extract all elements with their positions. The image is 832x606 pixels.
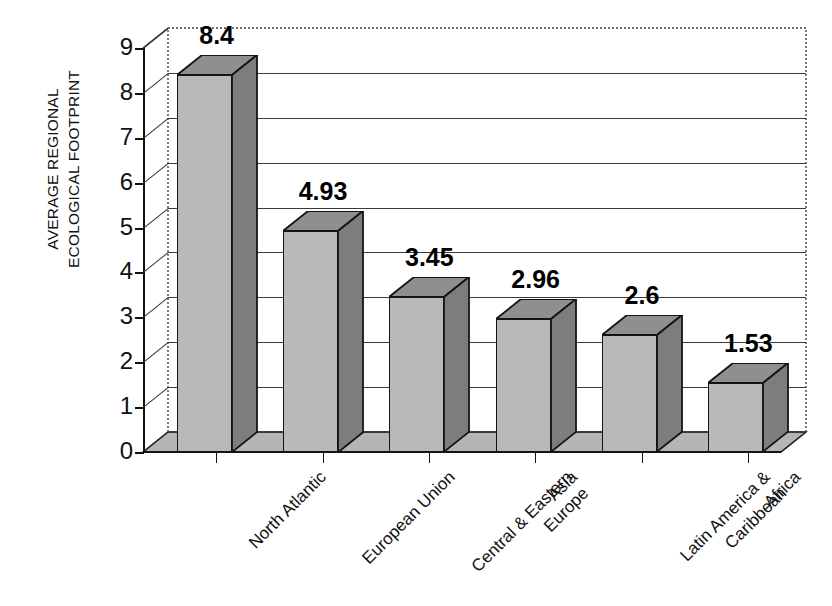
y-axis-tick-label: 0: [103, 439, 133, 463]
category-tick-mark: [748, 452, 749, 463]
category-tick-mark: [642, 452, 643, 463]
category-label: North Atlantic: [244, 466, 332, 554]
y-axis-title-line-1: AVERAGE REGIONAL: [42, 14, 63, 324]
category-tick-mark: [323, 452, 324, 463]
category-tick-mark: [429, 452, 430, 463]
y-axis-depth-connector: [143, 252, 169, 273]
y-axis-tick-label: 1: [103, 394, 133, 418]
y-axis-tick-label: 3: [103, 304, 133, 328]
category-label-line: European Union: [356, 466, 459, 569]
y-axis-depth-connector: [143, 342, 169, 363]
y-axis-depth-connector: [143, 297, 169, 318]
bar-front-face: [602, 335, 657, 452]
bar-front-face: [496, 319, 551, 452]
y-axis-line: [143, 48, 145, 452]
y-axis-tick-label: 9: [103, 35, 133, 59]
bar-side-face: [338, 211, 365, 454]
floor-left-wedge: [143, 432, 168, 452]
category-tick-mark: [216, 452, 217, 463]
y-axis-title-line-2: ECOLOGICAL FOOTPRINT: [63, 14, 84, 324]
bar-value-label: 2.96: [476, 267, 596, 292]
y-axis-tick-label: 6: [103, 170, 133, 194]
gridline: [168, 73, 806, 74]
y-axis-depth-connector: [143, 73, 169, 94]
bar-value-label: 4.93: [263, 179, 383, 204]
bar-value-label: 3.45: [369, 245, 489, 270]
y-axis-depth-connector: [143, 163, 169, 184]
bar-side-face: [657, 315, 684, 454]
category-label-line: North Atlantic: [244, 466, 332, 554]
gridline: [168, 118, 806, 119]
bar-side-face: [232, 55, 259, 454]
y-axis-tick-label: 5: [103, 215, 133, 239]
bar-front-face: [283, 231, 338, 452]
bar-side-face: [444, 277, 471, 454]
y-axis-depth-connector: [143, 387, 169, 408]
floor-left-diagonal: [143, 432, 168, 452]
gridline: [168, 208, 806, 209]
bar-front-face: [177, 75, 232, 452]
y-axis-tick-label: 7: [103, 125, 133, 149]
ecological-footprint-bar-chart: AVERAGE REGIONAL ECOLOGICAL FOOTPRINT 01…: [0, 0, 832, 606]
y-axis-title: AVERAGE REGIONAL ECOLOGICAL FOOTPRINT: [42, 14, 84, 324]
gridline: [168, 297, 806, 298]
category-tick-mark: [535, 452, 536, 463]
y-axis-tick-mark: [135, 452, 144, 454]
y-axis-depth-connector: [143, 208, 169, 229]
bar-value-label: 1.53: [688, 331, 808, 356]
y-axis-tick-label: 4: [103, 259, 133, 283]
bar-value-label: 2.6: [582, 283, 702, 308]
y-axis-tick-label: 8: [103, 80, 133, 104]
bar-value-label: 8.4: [157, 23, 277, 48]
y-axis-depth-connector: [143, 118, 169, 139]
category-label: European Union: [356, 466, 459, 569]
bar-front-face: [389, 297, 444, 452]
gridline: [168, 163, 806, 164]
bar-side-face: [763, 363, 790, 454]
bar-side-face: [551, 299, 578, 454]
bar-front-face: [708, 383, 763, 452]
y-axis-tick-label: 2: [103, 349, 133, 373]
